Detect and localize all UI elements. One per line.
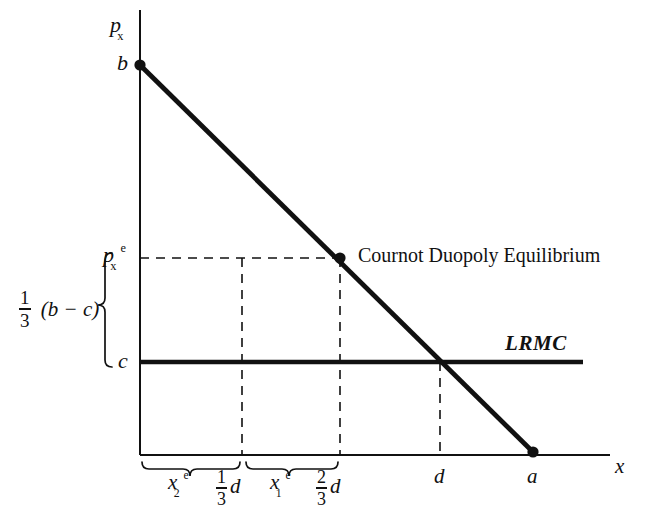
label-quantity-d: d — [434, 466, 445, 487]
label-quantity-firm2: x2e — [168, 472, 188, 497]
label-point-a: a — [527, 466, 538, 487]
y-axis-label-subscript: x — [117, 29, 123, 43]
fraction-denominator: 3 — [18, 311, 32, 330]
label-quantity-firm1: x1e — [270, 472, 290, 497]
cournot-duopoly-figure: px x b pxe c 1 3 (b − c) Cournot Duopoly… — [0, 0, 649, 517]
fraction-two-thirds-d: 2 3 — [315, 468, 328, 508]
point-marker-equilibrium — [334, 252, 345, 263]
fraction-one-third: 1 3 — [18, 288, 32, 330]
label-one-third-d-variable: d — [230, 474, 241, 498]
label-equilibrium-price-superscript: e — [120, 241, 125, 255]
fraction-numerator: 2 — [315, 468, 328, 486]
fraction-numerator: 1 — [18, 288, 32, 307]
label-cournot-equilibrium: Cournot Duopoly Equilibrium — [358, 245, 600, 265]
fraction-one-third-d: 1 3 — [215, 468, 228, 508]
fraction-denominator: 3 — [315, 490, 328, 508]
label-one-third-d: 1 3 d — [215, 468, 241, 508]
label-point-b: b — [117, 52, 128, 74]
label-two-thirds-d: 2 3 d — [315, 468, 341, 508]
label-price-margin: 1 3 (b − c) — [18, 288, 99, 330]
label-lrmc: LRMC — [505, 333, 567, 354]
label-quantity-firm1-superscript: e — [285, 469, 290, 482]
point-marker-a — [527, 446, 538, 457]
label-price-margin-expression: (b − c) — [41, 299, 99, 320]
label-two-thirds-d-variable: d — [330, 474, 341, 498]
fraction-denominator: 3 — [215, 490, 228, 508]
x-axis-label: x — [615, 456, 624, 477]
label-equilibrium-price-subscript: x — [110, 259, 116, 273]
fraction-numerator: 1 — [215, 468, 228, 486]
label-level-c: c — [118, 350, 128, 372]
label-quantity-firm1-subscript: 1 — [276, 487, 282, 500]
label-equilibrium-price: pxe — [103, 244, 126, 270]
label-quantity-firm2-subscript: 2 — [174, 487, 180, 500]
y-axis-label: px — [110, 14, 127, 40]
point-marker-b — [134, 59, 145, 70]
label-quantity-firm2-superscript: e — [183, 469, 188, 482]
